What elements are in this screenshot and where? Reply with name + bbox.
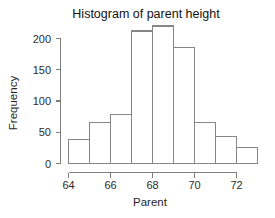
bar-3 — [132, 31, 153, 164]
histogram-plot: Histogram of parent height 0 50 — [0, 0, 275, 218]
x-tick-label-4: 72 — [230, 179, 242, 191]
bar-8 — [237, 148, 258, 164]
bar-1 — [90, 122, 111, 163]
x-tick-label-1: 66 — [104, 179, 116, 191]
bar-0 — [69, 140, 90, 164]
x-tick-label-0: 64 — [62, 179, 74, 191]
x-tick-label-2: 68 — [146, 179, 158, 191]
bar-2 — [111, 115, 132, 164]
bar-5 — [174, 48, 195, 164]
y-tick-label-1: 50 — [39, 126, 51, 138]
x-tick-label-3: 70 — [188, 179, 200, 191]
bar-7 — [216, 137, 237, 164]
bar-6 — [195, 122, 216, 163]
histogram-canvas: Histogram of parent height 0 50 — [0, 0, 275, 218]
bar-4 — [153, 26, 174, 164]
y-tick-label-2: 100 — [33, 95, 51, 107]
chart-title: Histogram of parent height — [72, 7, 220, 21]
x-axis-title: Parent — [133, 196, 168, 208]
y-axis-title: Frequency — [7, 76, 19, 131]
y-tick-label-4: 200 — [33, 33, 51, 45]
y-tick-label-3: 150 — [33, 64, 51, 76]
y-tick-label-0: 0 — [45, 158, 51, 170]
